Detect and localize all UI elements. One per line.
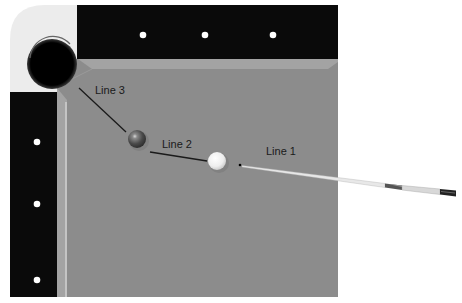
object-ball <box>128 130 146 148</box>
diamond-icon <box>270 32 277 39</box>
diamond-icon <box>34 277 41 284</box>
cue-tip-icon <box>239 164 242 167</box>
line-2-label: Line 2 <box>162 138 192 150</box>
line-1-label: Line 1 <box>266 145 296 157</box>
top-rail <box>77 5 338 59</box>
diamond-icon <box>34 139 41 146</box>
diamond-icon <box>202 32 209 39</box>
left-rail <box>10 92 57 297</box>
diamond-icon <box>34 201 41 208</box>
top-cushion <box>78 59 338 69</box>
pool-table-diagram: Line 3 Line 2 Line 1 <box>0 0 462 303</box>
cue-ball <box>208 152 226 170</box>
diamond-icon <box>140 32 147 39</box>
line-3-label: Line 3 <box>95 84 125 96</box>
